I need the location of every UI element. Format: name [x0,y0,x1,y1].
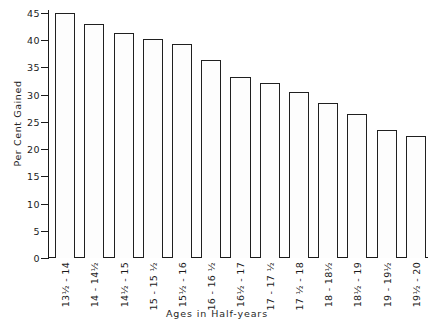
y-tick-mark [41,231,48,232]
y-tick-label: 15 [2,171,40,182]
bar [377,130,397,258]
x-tick-label-slot: 15½ - 16 [167,262,196,278]
bar [143,39,163,258]
bar-series [48,13,428,258]
bar [230,77,250,258]
bar [260,83,280,258]
bar [55,13,75,258]
x-tick-label-slot: 15 - 15 ½ [138,262,167,278]
y-tick-label: 45 [2,8,40,19]
x-tick-label-slot: 17 ½ - 18 [284,262,313,278]
y-tick-mark [41,40,48,41]
x-tick-label: 18½ - 19 [352,262,363,307]
x-tick-label-slot: 16½ - 17 [226,262,255,278]
y-axis-tick-labels: 051015202530354045 [0,0,40,332]
y-tick-mark [41,204,48,205]
x-axis-title: Ages in Half-years [0,308,434,319]
y-tick-label: 30 [2,89,40,100]
x-axis-tick-labels: 13½ - 1414 - 14½14½ - 1515 - 15 ½15½ - 1… [48,258,428,308]
y-tick-mark [41,258,48,259]
y-tick-label: 40 [2,35,40,46]
y-tick-label: 5 [2,225,40,236]
bar [201,60,221,258]
y-tick-mark [41,13,48,14]
bar [114,33,134,258]
x-tick-label-slot: 18 - 18½ [314,262,343,278]
bar [347,114,367,258]
bar [84,24,104,258]
x-tick-label-slot: 14½ - 15 [109,262,138,278]
x-tick-label-slot: 17 - 17 ½ [255,262,284,278]
x-tick-label: 14 - 14½ [89,262,100,307]
y-tick-label: 20 [2,144,40,155]
plot-area [48,13,428,258]
x-tick-label: 15 - 15 ½ [147,262,158,311]
bar-chart: Per Cent Gained 051015202530354045 13½ -… [0,0,434,332]
x-tick-label: 17 ½ - 18 [293,262,304,311]
x-tick-label: 15½ - 16 [177,262,188,307]
y-tick-label: 25 [2,116,40,127]
x-tick-label-slot: 19½ - 20 [401,262,430,278]
x-tick-label-slot: 14 - 14½ [80,262,109,278]
x-tick-label-slot: 19 - 19½ [372,262,401,278]
x-tick-label: 13½ - 14 [60,262,71,307]
y-tick-mark [41,67,48,68]
bar [172,44,192,258]
y-tick-label: 35 [2,62,40,73]
y-tick-label: 10 [2,198,40,209]
x-tick-label: 19 - 19½ [381,262,392,307]
y-tick-mark [41,149,48,150]
x-tick-label-slot: 16 - 16 ½ [197,262,226,278]
x-tick-label-slot: 13½ - 14 [51,262,80,278]
x-tick-label: 14½ - 15 [118,262,129,307]
x-tick-label: 18 - 18½ [323,262,334,307]
bar [406,136,426,258]
y-tick-mark [41,95,48,96]
y-tick-mark [41,122,48,123]
x-tick-label-slot: 18½ - 19 [343,262,372,278]
y-tick-label: 0 [2,253,40,264]
x-tick-label: 16½ - 17 [235,262,246,307]
x-tick-label: 17 - 17 ½ [264,262,275,311]
bar [289,92,309,258]
x-tick-label: 16 - 16 ½ [206,262,217,311]
bar [318,103,338,258]
y-tick-mark [41,176,48,177]
x-tick-label: 19½ - 20 [410,262,421,307]
